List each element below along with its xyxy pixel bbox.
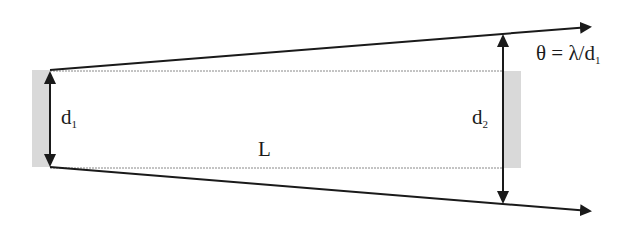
top-beam-edge-arrow	[50, 27, 590, 70]
beam-diagram	[0, 0, 634, 228]
d1-label: d1	[61, 107, 77, 130]
d2-arrowhead-down-icon	[497, 191, 509, 204]
bottom-beam-edge-arrow	[50, 167, 590, 211]
d2-label: d2	[472, 107, 488, 130]
d2-arrowhead-up-icon	[497, 34, 509, 47]
divergence-angle-formula: θ = λ/d1	[536, 43, 600, 66]
length-label: L	[258, 139, 271, 160]
output-aperture	[503, 71, 521, 168]
input-aperture	[32, 70, 50, 167]
